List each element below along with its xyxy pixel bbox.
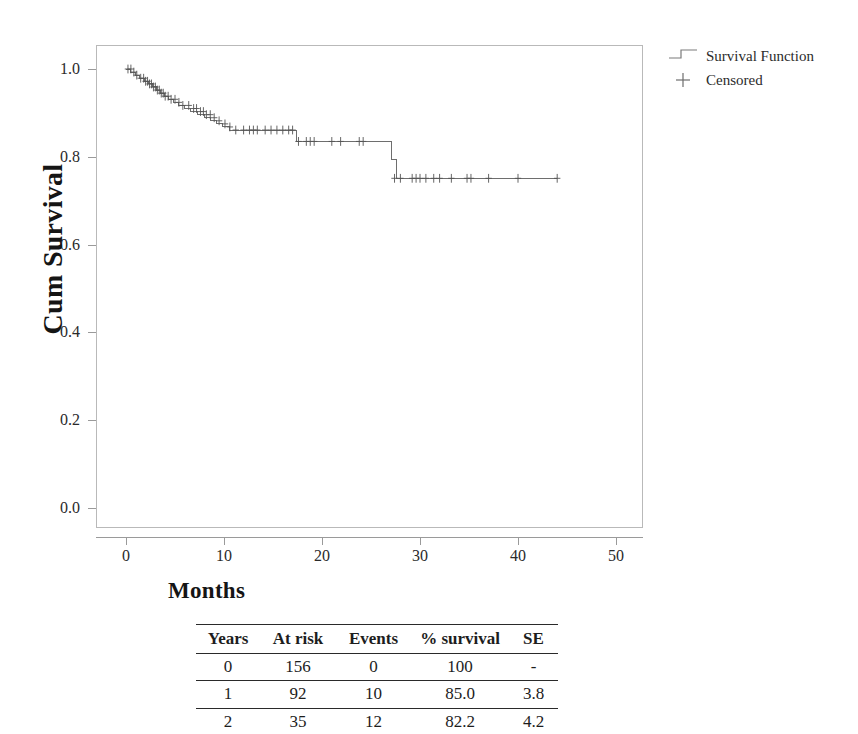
x-axis-tick [322,537,323,545]
x-axis-title: Months [168,578,245,604]
cell-years: 1 [196,681,260,709]
x-axis-line [96,537,643,538]
column-header-years: Years [196,625,260,654]
x-axis-tick [616,537,617,545]
legend-label-survival-function: Survival Function [704,48,814,65]
risk-table-header-row: Years At risk Events % survival SE [196,625,558,654]
x-axis-tick-label: 50 [596,548,636,564]
x-axis-tick-label: 10 [204,548,244,564]
cell-pct-survival: 82.2 [411,708,509,734]
cell-se: 3.8 [509,681,558,709]
cell-pct-survival: 100 [411,653,509,681]
y-axis-tick [88,508,96,509]
legend-item-survival-function: Survival Function [668,45,854,67]
y-axis-tick-label: 0.0 [34,500,80,516]
table-row: 01560100- [196,653,558,681]
x-axis-tick [126,537,127,545]
survival-figure: 0.00.20.40.60.81.0 01020304050 Cum Survi… [0,0,858,734]
cell-events: 0 [336,653,411,681]
cell-at-risk: 156 [260,653,336,681]
y-axis-tick [88,332,96,333]
censored-markers [125,65,561,183]
y-axis-tick [88,157,96,158]
survival-curve-canvas [96,45,643,528]
x-axis-tick [420,537,421,545]
x-axis-tick [224,537,225,545]
plus-marker-icon [668,70,704,90]
column-header-events: Events [336,625,411,654]
risk-table-body: 01560100-1921085.03.82351282.24.2 [196,653,558,734]
x-axis-tick-label: 20 [302,548,342,564]
risk-table-header: Years At risk Events % survival SE [196,625,558,654]
column-header-at-risk: At risk [260,625,336,654]
table-row: 1921085.03.8 [196,681,558,709]
y-axis-tick [88,69,96,70]
step-line-icon [668,46,704,66]
x-axis-tick [518,537,519,545]
y-axis-tick [88,245,96,246]
y-axis-tick-label: 1.0 [34,61,80,77]
cell-years: 2 [196,708,260,734]
cell-events: 12 [336,708,411,734]
table-row: 2351282.24.2 [196,708,558,734]
cell-pct-survival: 85.0 [411,681,509,709]
column-header-pct-survival: % survival [411,625,509,654]
cell-se: 4.2 [509,708,558,734]
survival-step-line [126,69,557,178]
cell-at-risk: 92 [260,681,336,709]
cell-at-risk: 35 [260,708,336,734]
y-axis-title: Cum Survival [37,134,69,364]
cell-events: 10 [336,681,411,709]
column-header-se: SE [509,625,558,654]
cell-years: 0 [196,653,260,681]
x-axis-tick-label: 30 [400,548,440,564]
y-axis-tick [88,420,96,421]
legend-item-censored: Censored [668,69,854,91]
chart-legend: Survival Function Censored [668,45,854,93]
legend-label-censored: Censored [704,72,763,89]
x-axis-tick-label: 40 [498,548,538,564]
cell-se: - [509,653,558,681]
y-axis-tick-label: 0.2 [34,412,80,428]
risk-table: Years At risk Events % survival SE 01560… [196,624,558,734]
x-axis-tick-label: 0 [106,548,146,564]
